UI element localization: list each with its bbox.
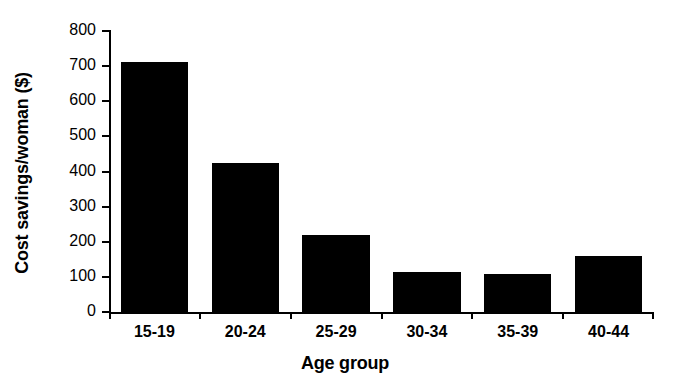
y-tick-0	[102, 311, 109, 313]
y-tick-label: 700	[50, 57, 96, 73]
x-tick	[471, 312, 473, 319]
y-tick-label: 800	[50, 22, 96, 38]
x-tick-label-40-44: 40-44	[563, 323, 654, 341]
bar-chart-figure: Cost savings/woman ($) 01002003004005006…	[0, 0, 690, 392]
y-axis-title: Cost savings/woman ($)	[9, 8, 35, 338]
x-tick	[562, 312, 564, 319]
x-tick-label-15-19: 15-19	[109, 323, 200, 341]
x-axis-end-cap	[652, 312, 654, 319]
x-tick	[199, 312, 201, 319]
y-axis-line	[109, 30, 111, 313]
bar-25-29	[302, 235, 369, 312]
y-tick-label: 600	[50, 92, 96, 108]
y-tick-label: 200	[50, 233, 96, 249]
x-tick-label-20-24: 20-24	[200, 323, 291, 341]
x-tick	[381, 312, 383, 319]
y-tick-100	[102, 276, 109, 278]
y-tick-label: 300	[50, 198, 96, 214]
y-tick-label: 0	[50, 303, 96, 319]
bar-20-24	[212, 163, 279, 312]
y-tick-label: 400	[50, 163, 96, 179]
x-tick-label-30-34: 30-34	[382, 323, 473, 341]
y-tick-600	[102, 100, 109, 102]
y-tick-label: 500	[50, 127, 96, 143]
y-tick-300	[102, 206, 109, 208]
x-axis-end-cap	[109, 312, 111, 319]
x-tick-label-35-39: 35-39	[472, 323, 563, 341]
y-tick-400	[102, 171, 109, 173]
y-tick-200	[102, 241, 109, 243]
y-tick-800	[102, 30, 109, 32]
y-tick-500	[102, 135, 109, 137]
y-tick-700	[102, 65, 109, 67]
bar-35-39	[484, 274, 551, 312]
bar-15-19	[121, 62, 188, 312]
x-tick-label-25-29: 25-29	[291, 323, 382, 341]
plot-area: 0100200300400500600700800 15-1920-2425-2…	[109, 31, 654, 312]
x-axis-title: Age group	[0, 352, 690, 374]
bar-30-34	[393, 272, 460, 312]
x-tick	[290, 312, 292, 319]
y-tick-label: 100	[50, 268, 96, 284]
bar-40-44	[575, 256, 642, 312]
